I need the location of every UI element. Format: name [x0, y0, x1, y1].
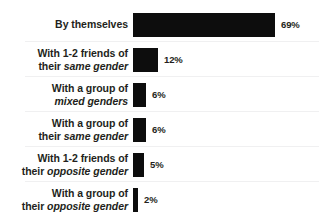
bar	[133, 48, 158, 72]
bar-value-label: 5%	[150, 159, 164, 170]
bar-value-label: 12%	[164, 54, 183, 65]
bar-value-label: 69%	[281, 19, 300, 30]
chart-row: With a group oftheir same gender6%	[0, 112, 327, 147]
bar-area: 5%	[133, 147, 327, 182]
bar	[133, 118, 146, 142]
category-label: With 1-2 friends oftheir opposite gender	[0, 152, 133, 177]
label-emphasis: opposite gender	[47, 165, 128, 177]
bar-value-label: 6%	[152, 89, 166, 100]
category-label-line: With 1-2 friends of	[0, 152, 128, 165]
category-label-line: With a group of	[0, 117, 128, 130]
chart-top-spacer	[0, 0, 327, 7]
chart-rows: By themselves69%With 1-2 friends oftheir…	[0, 7, 327, 217]
chart-row: With a group oftheir opposite gender2%	[0, 182, 327, 217]
category-label: With a group oftheir same gender	[0, 117, 133, 142]
category-label: By themselves	[0, 18, 133, 31]
category-label: With a group ofmixed genders	[0, 82, 133, 107]
bar-value-label: 2%	[144, 194, 158, 205]
label-emphasis: same gender	[64, 60, 128, 72]
label-text: their	[38, 130, 63, 142]
category-label-line: mixed genders	[0, 95, 128, 108]
horizontal-bar-chart: By themselves69%With 1-2 friends oftheir…	[0, 0, 327, 218]
category-label-line: With 1-2 friends of	[0, 47, 128, 60]
bar-area: 2%	[133, 182, 327, 217]
label-emphasis: opposite gender	[47, 200, 128, 212]
category-label-line: With a group of	[0, 82, 128, 95]
label-text: their	[22, 165, 47, 177]
category-label-line: By themselves	[0, 18, 128, 31]
bar	[133, 13, 275, 37]
bar-area: 12%	[133, 42, 327, 77]
category-label-line: their opposite gender	[0, 165, 128, 178]
label-text: their	[38, 60, 63, 72]
category-label-line: their same gender	[0, 60, 128, 73]
label-emphasis: same gender	[64, 130, 128, 142]
bar	[133, 188, 138, 212]
bar-area: 6%	[133, 77, 327, 112]
bar-area: 69%	[133, 7, 327, 42]
bar-area: 6%	[133, 112, 327, 147]
chart-row: By themselves69%	[0, 7, 327, 42]
chart-row: With a group ofmixed genders6%	[0, 77, 327, 112]
chart-row: With 1-2 friends oftheir same gender12%	[0, 42, 327, 77]
chart-row: With 1-2 friends oftheir opposite gender…	[0, 147, 327, 182]
bar	[133, 83, 146, 107]
category-label-line: their same gender	[0, 130, 128, 143]
label-text: With a group of	[52, 82, 128, 94]
category-label: With 1-2 friends oftheir same gender	[0, 47, 133, 72]
label-text: their	[22, 200, 47, 212]
label-text: With a group of	[52, 117, 128, 129]
label-emphasis: mixed genders	[55, 95, 128, 107]
label-text: With a group of	[52, 187, 128, 199]
label-text: By themselves	[55, 18, 128, 30]
category-label: With a group oftheir opposite gender	[0, 187, 133, 212]
label-text: With 1-2 friends of	[37, 152, 128, 164]
label-text: With 1-2 friends of	[37, 47, 128, 59]
bar-value-label: 6%	[152, 124, 166, 135]
category-label-line: With a group of	[0, 187, 128, 200]
category-label-line: their opposite gender	[0, 200, 128, 213]
bar	[133, 153, 144, 177]
